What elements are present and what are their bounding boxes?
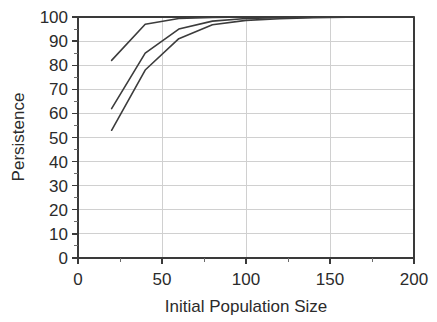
x-tick-label: 150 [316,270,344,289]
y-axis-title: Persistence [9,93,28,182]
y-tick-label: 60 [49,104,68,123]
y-tick-label: 100 [40,8,68,27]
y-tick-label: 10 [49,225,68,244]
y-tick-label: 20 [49,201,68,220]
x-tick-label: 200 [400,270,428,289]
x-tick-label: 0 [73,270,82,289]
y-tick-label: 0 [59,249,68,268]
y-tick-label: 50 [49,129,68,148]
x-tick-label: 100 [232,270,260,289]
y-tick-label: 40 [49,153,68,172]
chart-figure: 0102030405060708090100050100150200 Initi… [0,0,437,322]
y-tick-label: 70 [49,80,68,99]
x-tick-label: 50 [153,270,172,289]
y-tick-label: 30 [49,177,68,196]
y-tick-label: 90 [49,32,68,51]
x-axis-title: Initial Population Size [165,297,328,316]
y-tick-label: 80 [49,56,68,75]
persistence-line-chart: 0102030405060708090100050100150200 Initi… [0,0,437,322]
